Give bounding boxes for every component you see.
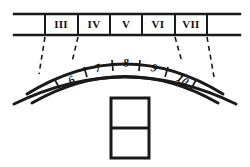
band-label-iii: III <box>54 18 68 30</box>
arch-joint-4 <box>139 60 140 71</box>
voussoir-label-7: 7 <box>93 61 104 75</box>
band-label-iv: IV <box>88 18 101 30</box>
band-label-vii: VII <box>182 18 199 30</box>
connector-vii-right <box>207 37 214 77</box>
two-cell-block <box>111 98 149 158</box>
connector-iii-iv <box>72 37 78 62</box>
band-label-v: V <box>122 18 130 30</box>
arch-voussoir-band: 6 7 8 9 10 <box>27 57 223 103</box>
upper-band-group: III IV V VI VII <box>14 13 240 36</box>
arch-joint-3 <box>112 60 113 71</box>
connector-vi-vii <box>175 37 182 62</box>
architectural-diagram: III IV V VI VII <box>0 0 250 167</box>
band-label-vi: VI <box>152 18 165 30</box>
voussoir-label-8: 8 <box>123 57 129 69</box>
figure-canvas: III IV V VI VII <box>0 0 250 167</box>
connector-iii-left <box>39 37 45 74</box>
